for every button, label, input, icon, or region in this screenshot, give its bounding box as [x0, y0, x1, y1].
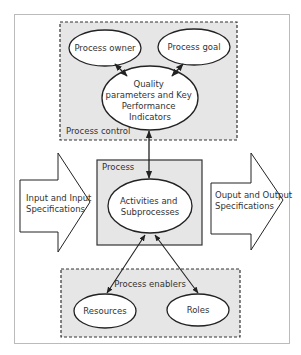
quality-line-2: parameters and Key — [106, 90, 192, 100]
roles-label: Roles — [187, 305, 210, 315]
process-enablers-label: Process enablers — [114, 279, 186, 289]
input-label: Input and Input Specifications — [26, 193, 94, 214]
activities-line-2: Subprocesses — [121, 207, 180, 217]
process-goal-label: Process goal — [167, 42, 220, 52]
input-line-1: Input and Input — [26, 193, 92, 203]
output-line-1: Ouput and Output — [215, 190, 293, 200]
activities-line-1: Activities and — [120, 196, 177, 206]
process-control-label: Process control — [66, 126, 130, 136]
activities-node — [108, 179, 192, 233]
activities-label: Activities and Subprocesses — [120, 196, 180, 217]
quality-line-3: Performance — [122, 101, 176, 111]
quality-line-4: Indicators — [129, 112, 172, 122]
resources-label: Resources — [83, 306, 127, 316]
process-label: Process — [102, 162, 135, 172]
quality-line-1: Quality — [133, 79, 163, 89]
process-diagram: Process control Process owner Process go… — [0, 0, 301, 355]
input-line-2: Specifications — [26, 204, 86, 214]
output-line-2: Specifications — [215, 201, 275, 211]
process-owner-label: Process owner — [74, 43, 136, 53]
